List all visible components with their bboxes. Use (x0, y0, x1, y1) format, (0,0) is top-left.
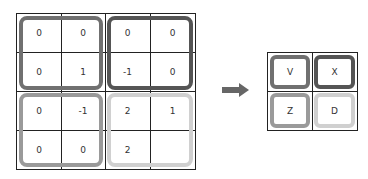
right-arrow-icon (222, 83, 250, 97)
input-cell: -1 (105, 52, 150, 91)
input-cell: 0 (150, 52, 195, 91)
output-cell: D (312, 91, 357, 130)
input-cell: 0 (61, 130, 105, 169)
input-cell: 0 (61, 14, 105, 52)
input-cell: 0 (17, 52, 61, 91)
input-cell: 0 (17, 91, 61, 130)
output-cell: V (268, 53, 312, 91)
input-cell: 1 (61, 52, 105, 91)
input-cell: 1 (150, 91, 195, 130)
input-cell: 2 (105, 130, 150, 169)
input-grid: 0 0 0 0 0 1 -1 0 0 -1 2 1 0 0 2 (16, 13, 196, 170)
input-cell (150, 130, 195, 169)
input-cell: 2 (105, 91, 150, 130)
input-cell: 0 (17, 14, 61, 52)
output-cell: Z (268, 91, 312, 130)
output-cell: X (312, 53, 357, 91)
input-cell: 0 (105, 14, 150, 52)
input-cell: 0 (150, 14, 195, 52)
input-cell: 0 (17, 130, 61, 169)
input-cell: -1 (61, 91, 105, 130)
output-grid: V X Z D (267, 52, 358, 131)
